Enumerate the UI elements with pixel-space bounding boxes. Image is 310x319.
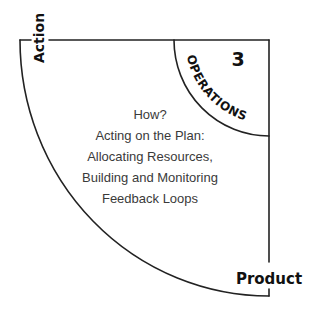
- description-line: Building and Monitoring: [82, 170, 218, 185]
- description-line: Allocating Resources,: [87, 149, 213, 164]
- axis-label-product: Product: [236, 270, 302, 288]
- description-line: How?: [133, 107, 166, 122]
- description-block: How? Acting on the Plan: Allocating Reso…: [82, 107, 218, 206]
- description-line: Feedback Loops: [102, 191, 199, 206]
- diagram-canvas: Action Product 3 OPERATIONS How? Acting …: [0, 0, 310, 319]
- sector-number: 3: [231, 48, 244, 70]
- operations-quadrant-diagram: Action Product 3 OPERATIONS How? Acting …: [0, 0, 310, 319]
- description-line: Acting on the Plan:: [95, 128, 204, 143]
- inner-arc: [174, 40, 269, 136]
- outer-arc: [20, 40, 269, 296]
- axis-label-action: Action: [31, 13, 47, 63]
